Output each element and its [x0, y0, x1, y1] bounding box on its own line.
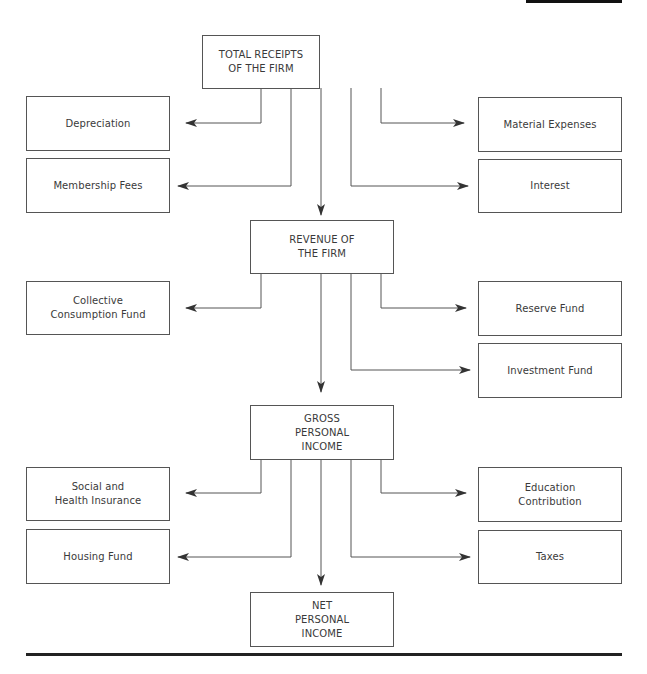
node-depreciation: Depreciation	[26, 96, 170, 151]
node-interest: Interest	[478, 159, 622, 213]
node-reserve-fund: Reserve Fund	[478, 281, 622, 336]
node-total-receipts: TOTAL RECEIPTS OF THE FIRM	[202, 35, 320, 89]
node-investment-fund: Investment Fund	[478, 343, 622, 398]
node-collective-consumption-fund: Collective Consumption Fund	[26, 281, 170, 335]
node-gross-personal-income: GROSS PERSONAL INCOME	[250, 405, 394, 460]
header-bar	[526, 0, 622, 3]
bottom-rule	[26, 653, 622, 656]
node-material-expenses: Material Expenses	[478, 97, 622, 152]
node-revenue: REVENUE OF THE FIRM	[250, 220, 394, 274]
node-social-health-insurance: Social and Health Insurance	[26, 467, 170, 521]
node-housing-fund: Housing Fund	[26, 529, 170, 584]
node-education-contribution: Education Contribution	[478, 467, 622, 522]
node-membership-fees: Membership Fees	[26, 158, 170, 213]
node-net-personal-income: NET PERSONAL INCOME	[250, 592, 394, 647]
node-taxes: Taxes	[478, 530, 622, 584]
